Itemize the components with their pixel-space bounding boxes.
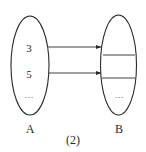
set-b-ellipse <box>101 15 137 115</box>
set-a: 3 5 … A <box>11 16 49 136</box>
set-a-ellipsis: … <box>25 90 34 100</box>
set-a-element-5: 5 <box>26 68 32 80</box>
mapping-diagram: 3 5 … A … B (2) <box>0 0 146 152</box>
set-b: … B <box>101 15 137 136</box>
set-b-ellipsis: … <box>115 90 124 100</box>
mapping-arrows <box>48 47 101 73</box>
set-a-ellipse <box>11 16 49 115</box>
set-a-element-3: 3 <box>26 42 32 54</box>
set-b-label: B <box>115 122 123 136</box>
set-a-label: A <box>26 122 35 136</box>
figure-caption: (2) <box>66 133 80 147</box>
